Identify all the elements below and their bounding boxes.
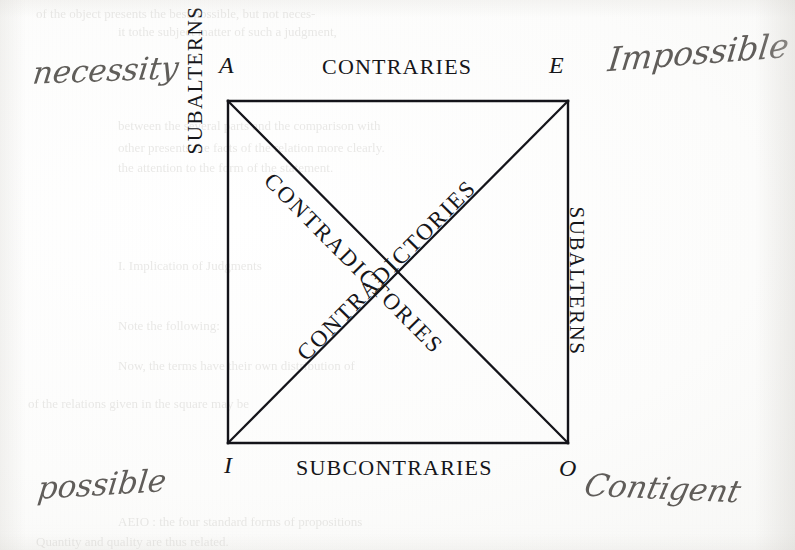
corner-letter-i: I bbox=[224, 452, 232, 479]
corner-letter-o: O bbox=[559, 455, 576, 482]
label-subalterns-left: SUBALTERNS bbox=[183, 0, 208, 178]
corner-letter-e: E bbox=[549, 52, 564, 79]
handwritten-annotation-necessity: necessity bbox=[31, 49, 181, 91]
corner-letter-a: A bbox=[219, 52, 234, 79]
handwritten-annotation-contigent: Contigent bbox=[581, 467, 744, 509]
label-contraries: CONTRARIES bbox=[322, 54, 472, 80]
label-subcontraries: SUBCONTRARIES bbox=[296, 455, 493, 481]
label-subalterns-right: SUBALTERNS bbox=[564, 183, 589, 379]
